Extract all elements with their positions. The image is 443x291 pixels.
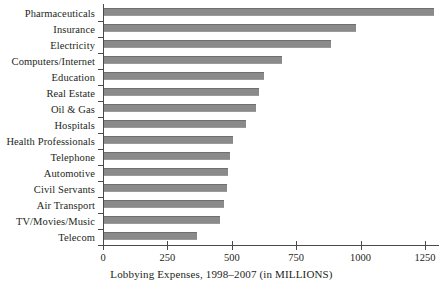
x-axis-tick xyxy=(296,241,297,250)
category-label: TV/Movies/Music xyxy=(16,214,95,230)
bar-row xyxy=(103,182,439,198)
category-label: Real Estate xyxy=(46,86,95,102)
x-axis-tick-label: 1250 xyxy=(415,252,436,263)
bar-row xyxy=(103,70,439,86)
x-axis-tick-label: 250 xyxy=(160,252,176,263)
category-label: Pharmaceuticals xyxy=(25,6,95,22)
chart-caption: Lobbying Expenses, 1998–2007 (in MILLION… xyxy=(0,268,443,280)
x-axis-line-extension xyxy=(425,245,439,246)
bar xyxy=(104,8,434,16)
category-tick xyxy=(98,133,104,134)
x-axis-tick xyxy=(167,241,168,250)
category-label: Education xyxy=(52,70,95,86)
bar-row xyxy=(103,230,439,246)
category-label-row: Telephone xyxy=(0,150,99,166)
bar xyxy=(104,136,233,144)
category-label-row: Telecom xyxy=(0,230,99,246)
category-label: Insurance xyxy=(53,22,95,38)
category-tick xyxy=(98,165,104,166)
category-label-row: Hospitals xyxy=(0,118,99,134)
category-tick xyxy=(98,213,104,214)
category-label-row: Education xyxy=(0,70,99,86)
category-label: Health Professionals xyxy=(6,134,95,150)
category-label: Electricity xyxy=(50,38,95,54)
bar xyxy=(104,216,220,224)
category-label: Civil Servants xyxy=(34,182,95,198)
category-label-row: Pharmaceuticals xyxy=(0,6,99,22)
bar-row xyxy=(103,166,439,182)
bar-row xyxy=(103,118,439,134)
category-label-row: TV/Movies/Music xyxy=(0,214,99,230)
bar-row xyxy=(103,38,439,54)
category-label: Computers/Internet xyxy=(12,54,95,70)
bar xyxy=(104,168,228,176)
bar xyxy=(104,120,246,128)
bar-row xyxy=(103,214,439,230)
category-label-row: Health Professionals xyxy=(0,134,99,150)
category-axis-labels: PharmaceuticalsInsuranceElectricityCompu… xyxy=(0,6,99,246)
category-label-row: Electricity xyxy=(0,38,99,54)
x-axis-line xyxy=(103,245,439,246)
category-tick xyxy=(98,245,104,246)
category-tick xyxy=(98,53,104,54)
x-axis-tick-label: 500 xyxy=(224,252,240,263)
category-tick xyxy=(98,181,104,182)
bar xyxy=(104,40,331,48)
bar-row xyxy=(103,86,439,102)
category-tick xyxy=(98,21,104,22)
category-label-row: Computers/Internet xyxy=(0,54,99,70)
bar-row xyxy=(103,150,439,166)
lobbying-expenses-bar-chart: PharmaceuticalsInsuranceElectricityCompu… xyxy=(0,0,443,291)
category-tick xyxy=(98,37,104,38)
category-tick xyxy=(98,149,104,150)
category-label: Oil & Gas xyxy=(51,102,95,118)
bar xyxy=(104,184,227,192)
x-axis-tick xyxy=(361,241,362,250)
category-tick xyxy=(98,229,104,230)
bar-row xyxy=(103,198,439,214)
bar xyxy=(104,152,230,160)
category-tick xyxy=(98,69,104,70)
category-tick xyxy=(98,85,104,86)
bar xyxy=(104,88,259,96)
plot-area xyxy=(103,6,439,240)
bar-row xyxy=(103,102,439,118)
x-axis-tick-label: 0 xyxy=(100,252,105,263)
category-label: Telephone xyxy=(51,150,95,166)
category-label: Hospitals xyxy=(54,118,95,134)
bar xyxy=(104,200,224,208)
x-axis-tick xyxy=(425,241,426,250)
bar xyxy=(104,56,282,64)
category-label-row: Civil Servants xyxy=(0,182,99,198)
category-tick xyxy=(98,101,104,102)
bar xyxy=(104,104,256,112)
bar-row xyxy=(103,134,439,150)
x-axis-tick-label: 750 xyxy=(288,252,304,263)
x-axis-tick xyxy=(232,241,233,250)
category-label: Air Transport xyxy=(37,198,95,214)
category-tick xyxy=(98,117,104,118)
category-label-row: Automotive xyxy=(0,166,99,182)
category-label-row: Real Estate xyxy=(0,86,99,102)
category-label-row: Oil & Gas xyxy=(0,102,99,118)
category-label: Automotive xyxy=(44,166,95,182)
category-label-row: Air Transport xyxy=(0,198,99,214)
bar-row xyxy=(103,54,439,70)
bar-row xyxy=(103,22,439,38)
bar xyxy=(104,72,264,80)
category-tick xyxy=(98,197,104,198)
category-label-row: Insurance xyxy=(0,22,99,38)
bar xyxy=(104,232,197,240)
bar-row xyxy=(103,6,439,22)
category-label: Telecom xyxy=(58,230,95,246)
bar xyxy=(104,24,356,32)
x-axis-tick-label: 1000 xyxy=(350,252,371,263)
